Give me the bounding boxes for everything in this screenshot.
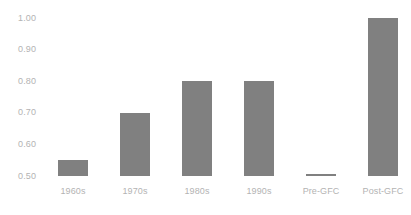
bar-group: 1980s [166, 0, 228, 215]
y-axis: 0.500.600.700.800.901.00 [0, 0, 40, 215]
bar[interactable] [306, 174, 336, 176]
bar[interactable] [120, 113, 150, 176]
plot-area: 1960s1970s1980s1990sPre-GFCPost-GFC [40, 0, 411, 215]
x-axis-category-label: 1960s [42, 187, 104, 196]
bar[interactable] [244, 81, 274, 176]
y-axis-tick-label: 0.90 [0, 45, 36, 54]
x-axis-category-label: 1990s [228, 187, 290, 196]
bar-group: 1970s [104, 0, 166, 215]
bar-chart: 0.500.600.700.800.901.00 1960s1970s1980s… [0, 0, 411, 215]
x-axis-category-label: Post-GFC [352, 187, 411, 196]
y-axis-tick-label: 0.50 [0, 172, 36, 181]
x-axis-category-label: Pre-GFC [290, 187, 352, 196]
y-axis-tick-label: 0.70 [0, 108, 36, 117]
y-axis-tick-label: 0.80 [0, 77, 36, 86]
y-axis-tick-label: 1.00 [0, 14, 36, 23]
bar[interactable] [368, 18, 398, 176]
x-axis-category-label: 1980s [166, 187, 228, 196]
bar[interactable] [58, 160, 88, 176]
y-axis-tick-label: 0.60 [0, 140, 36, 149]
bar[interactable] [182, 81, 212, 176]
bar-group: 1990s [228, 0, 290, 215]
bar-group: Pre-GFC [290, 0, 352, 215]
bar-group: Post-GFC [352, 0, 411, 215]
bar-group: 1960s [42, 0, 104, 215]
x-axis-category-label: 1970s [104, 187, 166, 196]
